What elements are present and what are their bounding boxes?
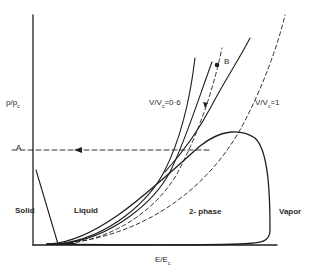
- arrow-down-icon: [203, 102, 208, 108]
- y-axis-label: p/pc: [6, 99, 20, 109]
- x-axis-label: E/Ec: [155, 256, 170, 266]
- region-two-phase-label: 2- phase: [189, 208, 221, 216]
- solid-liquid-boundary: [36, 170, 58, 244]
- isochore-curve-2: [60, 62, 212, 244]
- point-A-label: A: [16, 144, 21, 152]
- isochore-label-0-6: V/Vc=0·6: [149, 99, 181, 109]
- arrow-left-icon: [74, 147, 82, 153]
- region-liquid-label: Liquid: [74, 207, 98, 215]
- point-B-label: B: [224, 58, 229, 66]
- region-solid-label: Solid: [15, 207, 35, 215]
- phase-diagram: [0, 0, 318, 279]
- isochore-label-1: V/Vc=1: [255, 99, 280, 109]
- point-B-marker: [215, 63, 220, 68]
- region-vapor-label: Vapor: [279, 208, 301, 216]
